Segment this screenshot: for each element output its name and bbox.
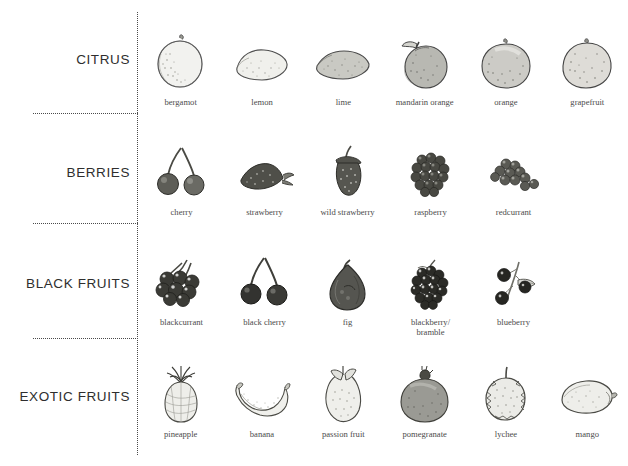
fruit-cell-bergamot: bergamot [140,22,221,108]
category-row-exotic-fruits: pineapple banana [140,362,628,440]
fruit-caption: mandarin orange [396,98,454,108]
raspberry-illustration [402,140,460,204]
fruit-cell-fig: fig [306,252,389,328]
fruit-caption: wild strawberry [320,208,374,218]
pomegranate-illustration [396,362,454,426]
fruit-caption: banana [250,430,274,440]
fruit-cell-redcurrant: redcurrant [472,140,555,218]
fruit-cell-cherry: cherry [140,140,223,218]
fruit-cell-lychee: lychee [465,362,546,440]
fruit-cell-black-cherry: black cherry [223,252,306,328]
orange-illustration [477,22,535,94]
fruit-caption: black cherry [243,318,286,328]
passion-fruit-illustration [317,362,369,426]
fruit-caption: lemon [251,98,272,108]
fruit-cell-blackberry: blackberry/ bramble [389,252,472,338]
fig-illustration [320,252,376,314]
fruit-caption: pomegranate [402,430,446,440]
blackcurrant-illustration [151,252,213,314]
redcurrant-illustration [481,140,547,204]
fruit-cell-raspberry: raspberry [389,140,472,218]
fruit-caption: orange [494,98,517,108]
fruit-cell-wild-strawberry: wild strawberry [306,140,389,218]
lime-illustration [312,22,374,94]
blueberry-illustration [485,252,543,314]
category-label-citrus: CITRUS [10,52,130,67]
row-divider-2 [33,223,138,224]
fruit-caption: blueberry [497,318,530,328]
blackberry-illustration [402,252,460,314]
fruit-caption: blackberry/ bramble [411,318,450,338]
fruit-cell-lime: lime [303,22,384,108]
fruit-caption: pineapple [164,430,197,440]
grapefruit-illustration [558,22,616,94]
row-divider-1 [33,113,138,114]
fruit-caption: passion fruit [322,430,365,440]
fruit-family-chart: CITRUS BERRIES BLACK FRUITS EXOTIC FRUIT… [0,0,628,466]
category-row-berries: cherry strawberry [140,140,628,218]
fruit-cell-mandarin-orange: mandarin orange [384,22,465,108]
category-row-citrus: bergamot lemon [140,22,628,108]
fruit-cell-blueberry: blueberry [472,252,555,328]
fruit-caption: fig [343,318,353,328]
fruit-cell-orange: orange [465,22,546,108]
fruit-caption: lychee [495,430,517,440]
mandarin-orange-illustration [395,22,455,94]
fruit-cell-pineapple: pineapple [140,362,221,440]
fruit-cell-pomegranate: pomegranate [384,362,465,440]
vertical-divider [137,12,138,455]
fruit-cell-strawberry: strawberry [223,140,306,218]
fruit-caption: blackcurrant [160,318,203,328]
wild-strawberry-illustration [320,140,376,204]
cherry-illustration [151,140,213,204]
category-label-berries: BERRIES [10,165,130,180]
pineapple-illustration [155,362,207,426]
row-divider-3 [33,338,138,339]
black-cherry-illustration [235,252,295,314]
fruit-caption: grapefruit [570,98,604,108]
fruit-caption: mango [576,430,599,440]
fruit-caption: redcurrant [496,208,531,218]
fruit-cell-passion-fruit: passion fruit [303,362,384,440]
lemon-illustration [231,22,293,94]
fruit-cell-lemon: lemon [221,22,302,108]
mango-illustration [554,362,620,426]
fruit-caption: lime [336,98,351,108]
fruit-cell-grapefruit: grapefruit [547,22,628,108]
category-row-black-fruits: blackcurrant black cherry [140,252,628,338]
category-label-exotic-fruits: EXOTIC FRUITS [10,389,130,404]
fruit-cell-blackcurrant: blackcurrant [140,252,223,328]
fruit-caption: bergamot [165,98,197,108]
fruit-cell-mango: mango [547,362,628,440]
fruit-caption: cherry [171,208,193,218]
strawberry-illustration [233,140,297,204]
fruit-caption: strawberry [246,208,283,218]
bergamot-illustration [153,22,209,94]
lychee-illustration [479,362,533,426]
category-label-black-fruits: BLACK FRUITS [10,276,130,291]
fruit-caption: raspberry [414,208,446,218]
fruit-cell-banana: banana [221,362,302,440]
banana-illustration [228,362,296,426]
